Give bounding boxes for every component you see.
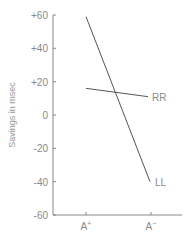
ytick-label: 0 [42,110,48,121]
series-line-ll [86,17,150,182]
xtick-label-a-minus: A− [146,220,157,232]
ytick-label: +20 [31,77,48,88]
y-tick-labels: +60 +40 +20 0 -20 -40 -60 [31,10,48,221]
y-axis-title: Savings in msec [7,82,17,148]
ytick-label: -60 [34,210,49,221]
series-label-rr: RR [152,92,166,103]
ytick-label: -40 [34,177,49,188]
series-label-ll: LL [155,177,167,188]
ytick-label: +40 [31,43,48,54]
chart: +60 +40 +20 0 -20 -40 -60 Savings in mse… [0,0,189,242]
ytick-label: +60 [31,10,48,21]
xtick-label-a-plus: A+ [81,220,92,232]
ytick-label: -20 [34,143,49,154]
